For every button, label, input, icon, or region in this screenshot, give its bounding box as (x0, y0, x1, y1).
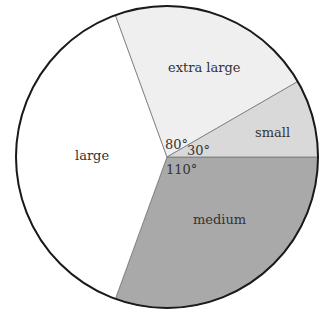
label-large: large (75, 148, 109, 163)
label-medium: medium (193, 212, 246, 227)
angle-medium: 110° (166, 162, 197, 177)
angle-small: 30° (187, 143, 210, 158)
angle-extra-large: 80° (165, 137, 188, 152)
label-small: small (255, 125, 290, 140)
pie-chart: extra large small large medium 80° 30° 1… (0, 0, 327, 317)
label-extra-large: extra large (168, 60, 241, 75)
